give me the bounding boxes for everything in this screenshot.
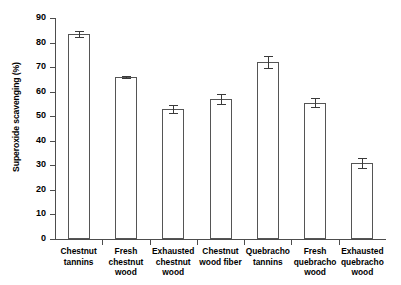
bars-layer [0, 0, 401, 285]
error-bar-cap-lower [358, 168, 367, 169]
bar [115, 77, 137, 239]
x-axis-label: Chestnut wood fiber [197, 246, 244, 267]
error-bar-cap-lower [311, 107, 320, 108]
x-separator-tick [339, 240, 340, 245]
error-bar-cap-upper [122, 76, 131, 77]
bar [257, 62, 279, 239]
x-separator-tick [150, 240, 151, 245]
error-bar-cap-lower [217, 104, 226, 105]
bar [162, 109, 184, 239]
x-separator-tick [197, 240, 198, 245]
error-bar-cap-upper [264, 56, 273, 57]
error-bar [362, 158, 363, 168]
error-bar-cap-lower [122, 78, 131, 79]
x-axis-label: Fresh chestnut wood [102, 246, 149, 278]
x-axis-label: Chestnut tannins [55, 246, 102, 267]
x-axis-label: Exhausted chestnut wood [150, 246, 197, 278]
error-bar-cap-upper [169, 105, 178, 106]
error-bar-cap-lower [264, 68, 273, 69]
bar [351, 163, 373, 239]
x-axis-label: Exhausted quebracho wood [339, 246, 386, 278]
error-bar-cap-lower [169, 113, 178, 114]
x-separator-tick [102, 240, 103, 245]
error-bar-cap-upper [75, 31, 84, 32]
x-separator-tick [291, 240, 292, 245]
bar-chart: Superoxide scavenging (%) 90807060504030… [0, 0, 401, 285]
error-bar-cap-upper [358, 158, 367, 159]
error-bar-cap-upper [311, 98, 320, 99]
error-bar-cap-lower [75, 37, 84, 38]
error-bar-cap-upper [217, 94, 226, 95]
error-bar [268, 56, 269, 68]
error-bar [315, 98, 316, 107]
x-axis-label: Quebracho tannins [244, 246, 291, 267]
x-separator-tick [244, 240, 245, 245]
error-bar [173, 105, 174, 113]
bar [304, 103, 326, 239]
bar [68, 34, 90, 239]
x-axis-label: Fresh quebracho wood [291, 246, 338, 278]
bar [210, 99, 232, 239]
error-bar [221, 94, 222, 103]
